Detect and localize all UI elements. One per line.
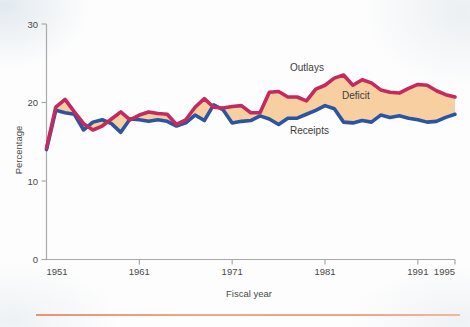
x-axis-tick-label: 1951 (47, 266, 68, 277)
deficit-region-label: Deficit (342, 90, 370, 101)
x-axis-ticks (139, 260, 455, 265)
x-axis-tick-label: 1995 (434, 266, 455, 277)
bottom-divider-rule (36, 314, 460, 316)
x-axis-tick-label: 1971 (222, 266, 243, 277)
y-axis-ticks (42, 24, 47, 260)
y-axis-tick-label: 30 (27, 19, 38, 30)
y-axis-tick-labels: 0102030 (27, 19, 38, 266)
chart-plot-area: 0102030 195119611971198119911995 Percent… (0, 0, 470, 327)
y-axis-tick-label: 20 (27, 97, 38, 108)
y-axis-tick-label: 10 (27, 176, 38, 187)
x-axis-title: Fiscal year (226, 288, 272, 299)
chart-figure: 0102030 195119611971198119911995 Percent… (0, 0, 470, 327)
x-axis-tick-labels: 195119611971198119911995 (47, 266, 456, 277)
y-axis-title: Percentage (13, 126, 24, 175)
y-axis-tick-label: 0 (33, 254, 38, 265)
x-axis-tick-label: 1961 (129, 266, 150, 277)
x-axis-tick-label: 1981 (314, 266, 335, 277)
outlays-series-label: Outlays (290, 62, 324, 73)
receipts-series-label: Receipts (290, 125, 329, 136)
x-axis-tick-label: 1991 (407, 266, 428, 277)
